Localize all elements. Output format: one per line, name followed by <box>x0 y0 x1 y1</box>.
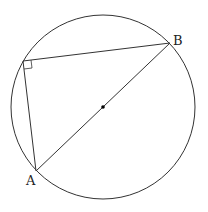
chord-ca <box>23 61 36 171</box>
chord-cb <box>23 43 170 61</box>
label-a: A <box>25 173 36 188</box>
geometry-diagram: B A <box>0 0 208 212</box>
label-b: B <box>173 33 183 48</box>
center-point <box>101 105 105 109</box>
right-angle-marker <box>24 60 32 69</box>
